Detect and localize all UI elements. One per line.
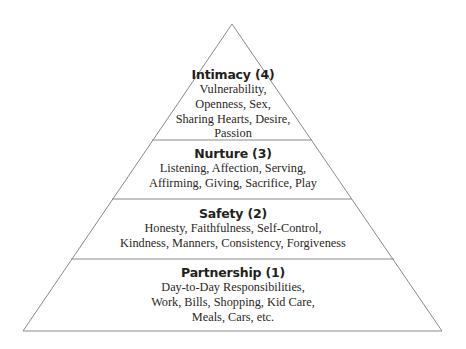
level-item-line: Openness, Sex, <box>0 97 466 112</box>
level-item-line: Sharing Hearts, Desire, <box>0 112 466 127</box>
level-item-line: Meals, Cars, etc. <box>0 310 466 325</box>
level-item-line: Affirming, Giving, Sacrifice, Play <box>0 176 466 191</box>
level-item-line: Kindness, Manners, Consistency, Forgiven… <box>0 236 466 251</box>
level-item-line: Day-to-Day Responsibilities, <box>0 280 466 295</box>
level-item-line: Work, Bills, Shopping, Kid Care, <box>0 295 466 310</box>
pyramid-level-nurture: Nurture (3) Listening, Affection, Servin… <box>0 147 466 191</box>
level-item-line: Honesty, Faithfulness, Self-Control, <box>0 221 466 236</box>
pyramid-level-intimacy: Intimacy (4) Vulnerability, Openness, Se… <box>0 68 466 141</box>
level-title-nurture: Nurture (3) <box>0 147 466 161</box>
pyramid-level-partnership: Partnership (1) Day-to-Day Responsibilit… <box>0 266 466 324</box>
level-item-line: Vulnerability, <box>0 82 466 97</box>
pyramid-diagram: Intimacy (4) Vulnerability, Openness, Se… <box>0 0 466 349</box>
level-title-safety: Safety (2) <box>0 207 466 221</box>
level-items-nurture: Listening, Affection, Serving, Affirming… <box>0 161 466 190</box>
level-items-intimacy: Vulnerability, Openness, Sex, Sharing He… <box>0 82 466 141</box>
level-items-safety: Honesty, Faithfulness, Self-Control, Kin… <box>0 221 466 250</box>
level-item-line: Passion <box>0 126 466 141</box>
level-title-intimacy: Intimacy (4) <box>0 68 466 82</box>
level-title-partnership: Partnership (1) <box>0 266 466 280</box>
level-items-partnership: Day-to-Day Responsibilities, Work, Bills… <box>0 280 466 324</box>
pyramid-level-safety: Safety (2) Honesty, Faithfulness, Self-C… <box>0 207 466 251</box>
level-item-line: Listening, Affection, Serving, <box>0 161 466 176</box>
